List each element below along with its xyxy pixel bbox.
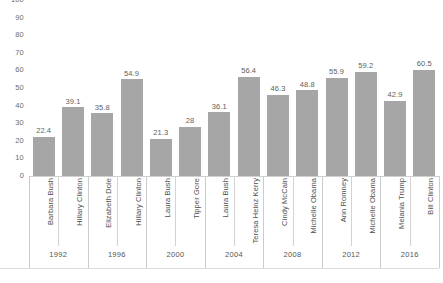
category-label: Laura Bush	[222, 178, 230, 217]
bar[interactable]	[179, 127, 201, 176]
category-tick: Hillary Clinton	[62, 176, 84, 246]
bar-slot: 55.9	[326, 0, 348, 176]
category-tick: Melania Trump	[384, 176, 406, 246]
bar[interactable]	[62, 107, 84, 176]
category-label: Melania Trump	[398, 178, 406, 229]
group-label-year: 2004	[205, 251, 264, 259]
group-label-year: 2008	[263, 251, 322, 259]
group-tick: 2000	[146, 246, 205, 268]
category-separator-tick	[410, 176, 411, 246]
y-axis-tick-label: 20	[15, 137, 24, 145]
category-separator-tick	[234, 176, 235, 246]
group-tick: 1996	[88, 246, 147, 268]
bar-value-label: 56.4	[230, 67, 268, 75]
category-tick: Barbara Bush	[33, 176, 55, 246]
category-tick: Tipper Gore	[179, 176, 201, 246]
bar-slot: 59.2	[355, 0, 377, 176]
bar-value-label: 54.9	[113, 70, 151, 78]
y-axis-tick-label: 0	[20, 172, 24, 180]
bar-slot: 28	[179, 0, 201, 176]
group-label-year: 2000	[146, 251, 205, 259]
y-axis: 1009080706050403020100	[0, 0, 29, 283]
bar-value-label: 22.4	[25, 127, 63, 135]
bar-slot: 56.4	[238, 0, 260, 176]
category-tick: Teresa Heinz Kerry	[238, 176, 260, 246]
plot-area: 22.439.135.854.921.32836.156.446.348.855…	[29, 0, 439, 176]
y-axis-tick-label: 100	[11, 0, 24, 4]
category-tick: Bill Clinton	[413, 176, 435, 246]
bar-slot: 35.8	[91, 0, 113, 176]
category-tick: Michelle Obama	[355, 176, 377, 246]
category-separator-tick	[58, 176, 59, 246]
category-tick: Michelle Obama	[296, 176, 318, 246]
category-tick: Cindy McCain	[267, 176, 289, 246]
category-label: Michelle Obama	[310, 178, 318, 234]
y-axis-tick-label: 80	[15, 31, 24, 39]
bar-value-label: 59.2	[347, 62, 385, 70]
bar-value-label: 42.9	[376, 91, 414, 99]
bar-slot: 39.1	[62, 0, 84, 176]
bar-value-label: 35.8	[83, 104, 121, 112]
bar-value-label: 60.5	[405, 60, 443, 68]
bar-value-label: 28	[171, 117, 209, 125]
group-tick: 2004	[205, 246, 264, 268]
bar[interactable]	[355, 72, 377, 176]
bar-slot: 22.4	[33, 0, 55, 176]
group-separator-tick	[380, 176, 381, 268]
bar-slot: 36.1	[208, 0, 230, 176]
group-separator-tick	[88, 176, 89, 268]
category-label: Ann Romney	[340, 178, 348, 222]
y-axis-tick-label: 50	[15, 84, 24, 92]
group-tick: 1992	[29, 246, 88, 268]
bar[interactable]	[33, 137, 55, 176]
category-tick: Elizabeth Dole	[91, 176, 113, 246]
y-axis-tick-label: 40	[15, 102, 24, 110]
bar[interactable]	[326, 78, 348, 176]
y-axis-tick-label: 70	[15, 49, 24, 57]
bar[interactable]	[267, 95, 289, 176]
bar-slot: 21.3	[150, 0, 172, 176]
bar-slot: 48.8	[296, 0, 318, 176]
group-axis: 1992199620002004200820122016	[29, 246, 439, 283]
bar[interactable]	[150, 139, 172, 176]
group-label-year: 2012	[322, 251, 381, 259]
category-label: Hillary Clinton	[76, 178, 84, 226]
group-separator-tick	[263, 176, 264, 268]
category-label: Hillary Clinton	[135, 178, 143, 226]
group-separator-tick	[29, 176, 30, 268]
y-axis-tick-label: 90	[15, 14, 24, 22]
bar-slot: 60.5	[413, 0, 435, 176]
bar[interactable]	[208, 112, 230, 176]
group-label-year: 1996	[88, 251, 147, 259]
group-separator-tick	[322, 176, 323, 268]
category-label: Barbara Bush	[47, 178, 55, 225]
bar[interactable]	[238, 77, 260, 176]
category-separator-tick	[117, 176, 118, 246]
group-separator-tick	[205, 176, 206, 268]
category-label: Elizabeth Dole	[105, 178, 113, 228]
bar-value-label: 48.8	[288, 81, 326, 89]
category-separator-tick	[351, 176, 352, 246]
bar[interactable]	[91, 113, 113, 176]
y-axis-tick-label: 60	[15, 67, 24, 75]
bar[interactable]	[121, 79, 143, 176]
bar-value-label: 36.1	[200, 103, 238, 111]
category-label: Laura Bush	[164, 178, 172, 217]
category-tick: Hillary Clinton	[121, 176, 143, 246]
bar[interactable]	[413, 70, 435, 176]
chart-bottom-rule	[0, 268, 439, 269]
category-separator-tick	[293, 176, 294, 246]
bar[interactable]	[296, 90, 318, 176]
group-tick: 2012	[322, 246, 381, 268]
bar-slot: 54.9	[121, 0, 143, 176]
category-label: Tipper Gore	[193, 178, 201, 219]
y-axis-tick-label: 30	[15, 119, 24, 127]
bar[interactable]	[384, 101, 406, 177]
group-tick: 2016	[380, 246, 439, 268]
group-separator-tick	[146, 176, 147, 268]
group-label-year: 1992	[29, 251, 88, 259]
y-axis-tick-label: 10	[15, 155, 24, 163]
category-label: Bill Clinton	[427, 178, 435, 215]
category-tick: Laura Bush	[150, 176, 172, 246]
group-label-year: 2016	[380, 251, 439, 259]
